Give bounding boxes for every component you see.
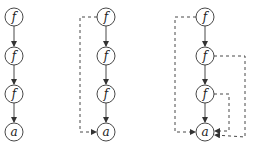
diagram-left: f f f a (5, 8, 23, 141)
shared-edge (214, 56, 245, 137)
node-a: a (5, 123, 23, 141)
node-a: a (196, 123, 214, 141)
node-a: a (97, 123, 115, 141)
shared-edge (214, 94, 229, 131)
node-f: f (196, 8, 214, 26)
shared-edge (175, 17, 196, 132)
node-f: f (97, 85, 115, 103)
node-f: f (5, 8, 23, 26)
diagram-right: f f f a (175, 8, 245, 141)
node-f: f (196, 85, 214, 103)
shared-edge (80, 17, 97, 132)
node-f: f (97, 47, 115, 65)
node-f: f (196, 47, 214, 65)
node-f: f (5, 85, 23, 103)
svg-text:a: a (10, 125, 17, 139)
svg-text:a: a (201, 125, 208, 139)
node-f: f (5, 47, 23, 65)
node-f: f (97, 8, 115, 26)
term-graph-diagrams: f f f a f f f a f f f a (0, 0, 253, 146)
svg-text:a: a (102, 125, 109, 139)
diagram-middle: f f f a (80, 8, 115, 141)
